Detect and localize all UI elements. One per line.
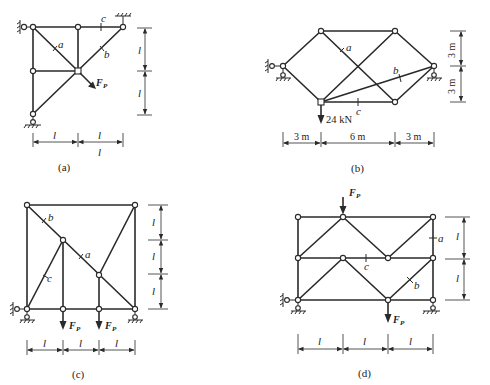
support-left-roller-a bbox=[17, 20, 30, 34]
svg-text:l: l bbox=[152, 250, 155, 262]
dimension-horizontal-b: 3 m 6 m 3 m bbox=[283, 131, 434, 147]
svg-text:l: l bbox=[43, 337, 46, 349]
member-label-a: a bbox=[85, 248, 91, 260]
svg-text:F: F bbox=[104, 320, 112, 331]
support-right-d bbox=[423, 303, 440, 315]
figure-c: b a c bbox=[10, 202, 168, 381]
dimension-vertical-c: l l l bbox=[148, 205, 168, 309]
load-arrow-d-top: F P bbox=[340, 187, 362, 215]
member-label-a: a bbox=[58, 38, 64, 50]
load-arrow-d-bottom: F P bbox=[385, 303, 406, 327]
svg-text:l: l bbox=[79, 337, 82, 349]
member-label-b: b bbox=[393, 64, 399, 76]
svg-text:P: P bbox=[356, 192, 361, 200]
support-bottom-pin-a bbox=[24, 117, 41, 128]
load-arrow-c-1: F P bbox=[60, 312, 82, 333]
dimension-vertical-b: 3 m 3 m bbox=[446, 31, 466, 102]
caption-b: (b) bbox=[351, 162, 364, 175]
svg-text:3 m: 3 m bbox=[446, 43, 457, 59]
caption-a: (a) bbox=[58, 161, 71, 174]
svg-text:F: F bbox=[68, 320, 76, 331]
dimension-horizontal-d: l l l bbox=[298, 334, 433, 354]
member-label-b: b bbox=[104, 48, 110, 60]
member-label-c: c bbox=[356, 105, 361, 117]
caption-c: (c) bbox=[72, 368, 85, 381]
svg-text:l: l bbox=[98, 129, 101, 141]
member-label-c: c bbox=[47, 272, 52, 284]
svg-text:P: P bbox=[76, 325, 81, 333]
support-left-c bbox=[10, 302, 35, 323]
member-label-c: c bbox=[101, 12, 106, 24]
svg-text:3 m: 3 m bbox=[294, 131, 310, 142]
truss-b-members bbox=[283, 31, 434, 102]
svg-text:F: F bbox=[348, 187, 356, 198]
load-arrow-a: F P bbox=[80, 73, 108, 90]
load-arrow-c-2: F P bbox=[96, 312, 118, 333]
svg-text:3 m: 3 m bbox=[446, 79, 457, 95]
load-arrow-b: 24 kN bbox=[318, 105, 353, 125]
support-top-pin-a bbox=[115, 13, 131, 24]
svg-text:P: P bbox=[103, 82, 108, 90]
svg-text:l: l bbox=[152, 285, 155, 297]
figure-d: a c b bbox=[280, 187, 470, 380]
dimension-vertical-d: l l bbox=[445, 217, 470, 300]
svg-text:l: l bbox=[53, 129, 56, 141]
svg-text:l: l bbox=[138, 44, 141, 56]
svg-text:3 m: 3 m bbox=[406, 131, 422, 142]
svg-text:F: F bbox=[95, 77, 103, 88]
figure-a: a b c bbox=[17, 12, 152, 174]
dimension-vertical-a: l l bbox=[137, 28, 152, 115]
svg-text:l: l bbox=[152, 216, 155, 228]
member-b-tick bbox=[399, 74, 401, 82]
svg-text:l: l bbox=[456, 272, 459, 284]
svg-text:l: l bbox=[98, 146, 101, 158]
member-label-c: c bbox=[364, 260, 369, 272]
truss-figures: a b c bbox=[0, 0, 490, 385]
support-right-c bbox=[128, 312, 143, 324]
svg-text:l: l bbox=[115, 337, 118, 349]
svg-text:l: l bbox=[409, 335, 412, 347]
svg-text:l: l bbox=[363, 335, 366, 347]
caption-d: (d) bbox=[358, 367, 371, 380]
svg-text:P: P bbox=[400, 319, 405, 327]
member-label-b: b bbox=[48, 211, 54, 223]
member-label-a: a bbox=[438, 232, 444, 244]
svg-text:24 kN: 24 kN bbox=[326, 114, 352, 125]
svg-text:l: l bbox=[318, 335, 321, 347]
member-label-b: b bbox=[414, 279, 420, 291]
dimension-horizontal-c: l l l bbox=[27, 337, 135, 355]
figure-b: a b c bbox=[265, 28, 466, 175]
svg-text:P: P bbox=[112, 325, 117, 333]
svg-text:l: l bbox=[456, 230, 459, 242]
svg-text:F: F bbox=[392, 314, 400, 325]
dimension-horizontal-a: l l l bbox=[33, 129, 123, 158]
member-label-a: a bbox=[346, 41, 352, 53]
svg-text:6 m: 6 m bbox=[350, 131, 366, 142]
svg-text:l: l bbox=[138, 87, 141, 99]
